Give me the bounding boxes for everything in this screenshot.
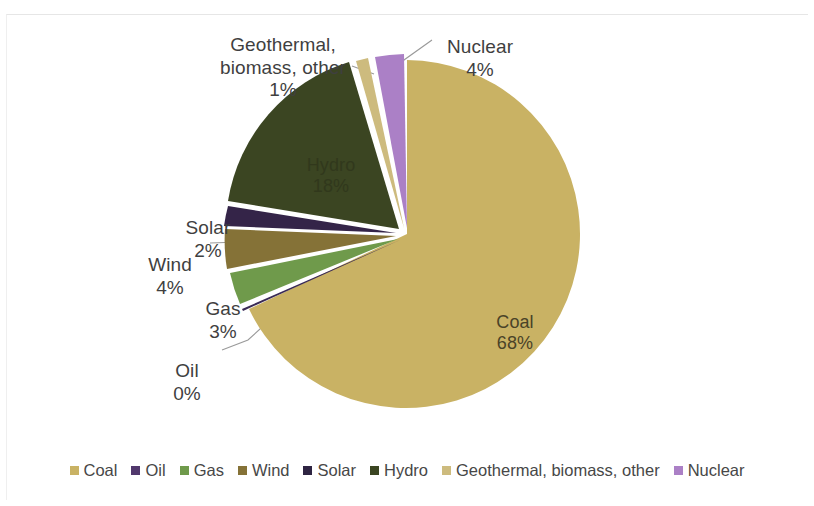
legend-swatch-icon (303, 466, 312, 475)
legend-label: Wind (252, 462, 290, 479)
pie-label-geothermal-pct: 1% (198, 79, 368, 101)
legend-swatch-icon (180, 466, 189, 475)
legend-label: Gas (194, 462, 224, 479)
legend-item[interactable]: Hydro (370, 462, 428, 479)
pie-label-hydro-name: Hydro (307, 155, 356, 175)
pie-label-nuclear-name: Nuclear (447, 36, 513, 57)
pie-label-gas-name: Gas (205, 298, 240, 319)
legend-swatch-icon (70, 466, 79, 475)
pie-label-hydro: Hydro 18% (286, 134, 376, 219)
legend-item[interactable]: Gas (180, 462, 224, 479)
legend-label: Coal (84, 462, 118, 479)
pie-chart-svg (0, 0, 814, 506)
pie-label-oil: Oil 0% (152, 338, 222, 428)
legend-swatch-icon (370, 466, 379, 475)
pie-label-nuclear: Nuclear 4% (425, 14, 535, 104)
pie-chart: Geothermal, biomass, other 1% Nuclear 4%… (0, 0, 814, 506)
legend-item[interactable]: Wind (238, 462, 290, 479)
legend-label: Oil (145, 462, 165, 479)
chart-legend: CoalOilGasWindSolarHydroGeothermal, biom… (0, 462, 814, 479)
legend-swatch-icon (131, 466, 140, 475)
legend-label: Geothermal, biomass, other (456, 462, 660, 479)
pie-label-coal-pct: 68% (470, 333, 560, 354)
pie-label-hydro-pct: 18% (286, 176, 376, 197)
legend-item[interactable]: Nuclear (674, 462, 745, 479)
legend-item[interactable]: Oil (131, 462, 165, 479)
pie-label-oil-name: Oil (175, 360, 199, 381)
legend-label: Nuclear (688, 462, 745, 479)
pie-label-geothermal: Geothermal, biomass, other 1% (198, 12, 368, 124)
pie-label-wind-name: Wind (148, 254, 192, 275)
pie-label-coal: Coal 68% (470, 291, 560, 376)
legend-item[interactable]: Geothermal, biomass, other (442, 462, 660, 479)
pie-label-coal-name: Coal (496, 312, 533, 332)
pie-label-geothermal-name: Geothermal, biomass, other (220, 34, 346, 77)
pie-label-oil-pct: 0% (152, 383, 222, 405)
legend-swatch-icon (442, 466, 451, 475)
legend-swatch-icon (674, 466, 683, 475)
legend-item[interactable]: Coal (70, 462, 118, 479)
pie-label-nuclear-pct: 4% (425, 59, 535, 81)
legend-item[interactable]: Solar (303, 462, 356, 479)
legend-label: Solar (317, 462, 356, 479)
legend-label: Hydro (384, 462, 428, 479)
legend-swatch-icon (238, 466, 247, 475)
